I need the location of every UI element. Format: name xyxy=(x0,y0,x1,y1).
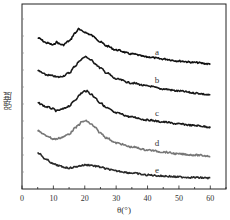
curve-label-b: b xyxy=(155,75,160,85)
plot-frame xyxy=(22,4,226,189)
curve-c xyxy=(38,90,211,127)
x-tick-label: 50 xyxy=(175,194,183,203)
x-tick-label: 20 xyxy=(81,194,89,203)
xrd-chart: 0102030405060 abcde θ(°) xyxy=(0,0,230,220)
x-axis-title: θ(°) xyxy=(117,205,131,215)
x-tick-label: 40 xyxy=(144,194,152,203)
curve-a xyxy=(38,28,211,64)
curve-e xyxy=(38,152,211,178)
curve-label-c: c xyxy=(155,108,159,118)
x-tick-label: 0 xyxy=(20,194,24,203)
curve-label-a: a xyxy=(155,47,159,57)
x-tick-label: 30 xyxy=(112,194,120,203)
x-axis-ticks: 0102030405060 xyxy=(20,186,226,204)
x-tick-label: 10 xyxy=(49,194,57,203)
y-axis-title: 强度 xyxy=(2,92,14,110)
curve-label-e: e xyxy=(155,165,159,175)
curves xyxy=(38,28,211,178)
x-tick-label: 60 xyxy=(206,194,214,203)
curve-labels: abcde xyxy=(155,47,160,175)
curve-label-d: d xyxy=(155,138,160,148)
